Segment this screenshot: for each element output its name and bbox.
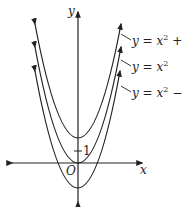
y-axis-label: y [67,4,75,18]
pointer-line [121,34,131,40]
pointer-line [121,60,131,66]
x-axis-label: x [140,163,147,177]
curve-label-x2-plus-2: y = x2 + 2 [131,33,183,48]
curve-label-x2-minus-2: y = x2 − 2 [131,85,183,100]
origin-label: O [66,164,76,178]
y-tick-label: 1 [83,144,91,158]
x-axis: x [12,163,147,177]
curve-label-x2: y = x2 [131,59,168,74]
parabola-graph: x y O 1 y = x2 + 2 y = x2 y = x2 − 2 [0,0,183,207]
pointer-line [121,86,131,92]
